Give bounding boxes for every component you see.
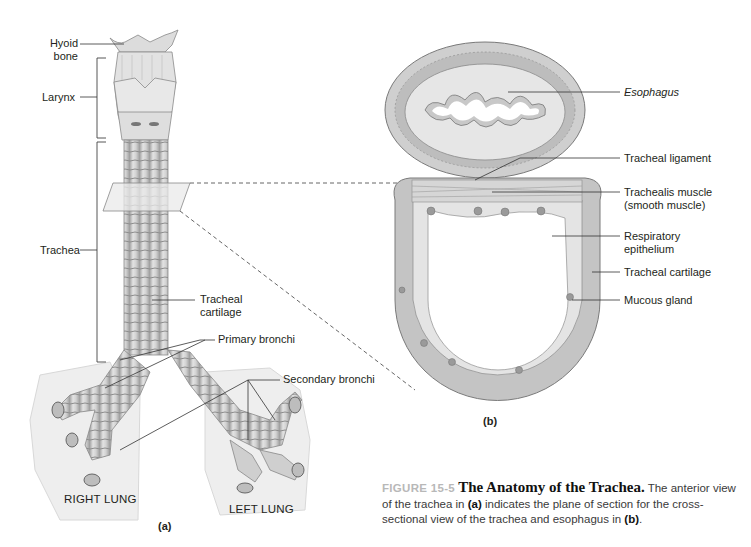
caption-ref-a: (a) <box>468 498 482 510</box>
panel-b-tag: (b) <box>483 415 497 427</box>
label-trachealis-line2: (smooth muscle) <box>624 199 712 212</box>
label-hyoid-line1: Hyoid <box>44 37 78 50</box>
label-hyoid-bone: Hyoid bone <box>44 37 78 63</box>
label-respiratory-epithelium: Respiratory epithelium <box>624 230 680 256</box>
label-trachealis-muscle: Trachealis muscle (smooth muscle) <box>624 186 712 212</box>
label-secondary-bronchi: Secondary bronchi <box>283 373 375 386</box>
label-resp-epi-line2: epithelium <box>624 243 680 256</box>
label-tracheal-cartilage-a: Tracheal cartilage <box>200 293 242 319</box>
panel-a-tag: (a) <box>158 520 171 532</box>
label-hyoid-line2: bone <box>44 50 78 63</box>
label-trachealis-line1: Trachealis muscle <box>624 186 712 199</box>
caption-text-3: . <box>639 513 642 525</box>
label-trachea: Trachea <box>40 244 80 257</box>
figure-caption: FIGURE 15-5 The Anatomy of the Trachea. … <box>382 480 742 528</box>
figure-title: The Anatomy of the Trachea. <box>458 479 645 495</box>
label-resp-epi-line1: Respiratory <box>624 230 680 243</box>
figure-number: FIGURE 15-5 <box>382 482 455 494</box>
label-right-lung: RIGHT LUNG <box>64 493 137 506</box>
label-tracheal-cartilage-line1: Tracheal <box>200 293 242 306</box>
label-tracheal-cartilage-line2: cartilage <box>200 306 242 319</box>
label-esophagus: Esophagus <box>624 86 679 99</box>
label-tracheal-ligament: Tracheal ligament <box>624 152 711 165</box>
label-tracheal-cartilage-b: Tracheal cartilage <box>624 266 711 279</box>
caption-ref-b: (b) <box>624 513 639 525</box>
label-primary-bronchi: Primary bronchi <box>218 333 295 346</box>
label-mucous-gland: Mucous gland <box>624 294 693 307</box>
label-larynx: Larynx <box>42 91 75 104</box>
label-left-lung: LEFT LUNG <box>229 503 294 516</box>
